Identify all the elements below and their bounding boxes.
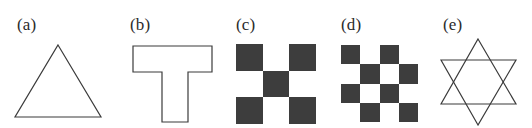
checker-cell [399,45,418,64]
checker-cell [263,44,290,71]
checker-cell [263,71,290,98]
checker-cell [360,84,379,103]
figure-canvas: (a) (b) (c) (d) (e) [0,0,532,128]
panel-label-e: (e) [443,16,462,33]
checker-cell [360,45,379,64]
checker-cell [236,97,263,124]
checkerboard-3x3 [236,44,316,124]
checker-cell [360,103,379,122]
panel-label-a: (a) [17,16,36,33]
checker-cell [263,97,290,124]
panel-label-c: (c) [236,16,255,33]
checker-cell [341,64,360,83]
checker-cell [380,64,399,83]
checker-cell [380,84,399,103]
checker-cell [380,45,399,64]
checker-cell [341,103,360,122]
checker-cell [399,64,418,83]
panel-label-d: (d) [341,16,361,33]
checkerboard-4x4 [341,45,418,122]
checker-cell [341,84,360,103]
star-of-david-shape [440,34,528,128]
checker-cell [380,103,399,122]
checker-cell [360,64,379,83]
checker-cell [399,103,418,122]
checker-cell [236,71,263,98]
checker-cell [236,44,263,71]
checker-cell [289,71,316,98]
checker-cell [399,84,418,103]
t-shape [128,40,223,128]
panel-label-b: (b) [130,16,150,33]
checker-cell [289,44,316,71]
triangle-shape [10,40,110,125]
checker-cell [341,45,360,64]
checker-cell [289,97,316,124]
